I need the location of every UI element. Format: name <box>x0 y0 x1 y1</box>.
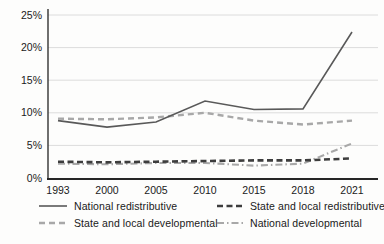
x-tick-label: 2015 <box>242 184 266 196</box>
x-tick-label: 2000 <box>95 184 119 196</box>
legend-label-state-local-developmental: State and local developmental <box>74 217 218 229</box>
legend: National redistributive State and local … <box>0 200 384 229</box>
legend-item-national-redistributive: National redistributive <box>38 200 212 212</box>
y-tick-label: 20% <box>21 41 42 53</box>
x-tick-label: 2005 <box>144 184 168 196</box>
legend-item-state-local-redistributive: State and local redistributive <box>216 200 384 212</box>
legend-label-national-developmental: National developmental <box>250 217 362 229</box>
y-tick-label: 0% <box>27 172 42 184</box>
x-tick-label: 1993 <box>46 184 70 196</box>
line-chart-figure: 0%5%10%15%20%25%199320002005201020152018… <box>0 0 384 244</box>
y-tick-label: 10% <box>21 106 42 118</box>
dashed-line-icon <box>38 219 68 227</box>
y-tick-label: 5% <box>27 139 42 151</box>
x-tick-label: 2018 <box>291 184 315 196</box>
bold-dashed-line-icon <box>216 202 244 210</box>
x-tick-label: 2010 <box>193 184 217 196</box>
legend-label-national-redistributive: National redistributive <box>74 200 177 212</box>
legend-item-state-local-developmental: State and local developmental <box>38 217 212 229</box>
y-tick-label: 25% <box>21 9 42 21</box>
series-line-state-and-local-developmental <box>58 113 352 125</box>
dash-dot-line-icon <box>216 219 244 227</box>
legend-label-state-local-redistributive: State and local redistributive <box>250 200 384 212</box>
solid-line-icon <box>38 202 68 210</box>
x-tick-label: 2021 <box>340 184 364 196</box>
y-tick-label: 15% <box>21 74 42 86</box>
legend-item-national-developmental: National developmental <box>216 217 384 229</box>
chart-plot-area: 0%5%10%15%20%25%199320002005201020152018… <box>0 0 384 198</box>
